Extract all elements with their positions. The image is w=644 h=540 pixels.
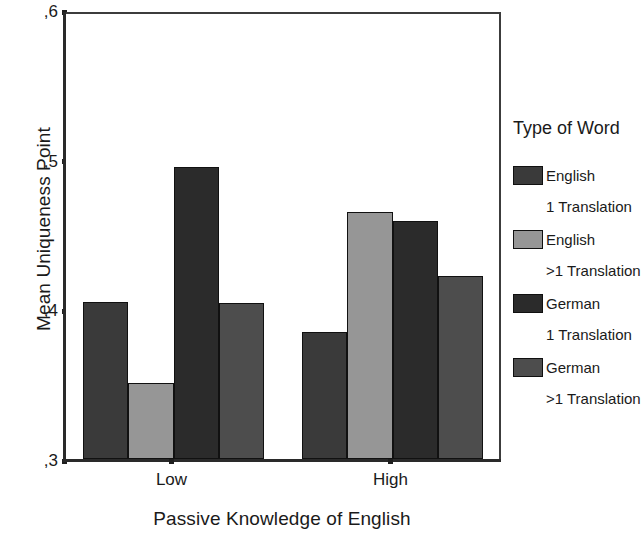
legend-entry: German1 Translation — [513, 293, 644, 342]
legend-entry-row: German — [513, 293, 644, 314]
legend-swatch — [513, 230, 543, 249]
legend-label: English — [546, 232, 595, 247]
legend-swatch — [513, 358, 543, 377]
bar — [302, 332, 347, 459]
legend-sublabel: 1 Translation — [546, 199, 644, 214]
y-axis-tick-label: ,6 — [24, 3, 58, 20]
legend-swatch — [513, 294, 543, 313]
x-axis-title: Passive Knowledge of English — [63, 508, 501, 530]
legend-label: English — [546, 168, 595, 183]
x-axis-tick-label: Low — [112, 470, 232, 490]
legend-entry: English>1 Translation — [513, 229, 644, 278]
legend-entry: German>1 Translation — [513, 357, 644, 406]
legend-label: German — [546, 360, 600, 375]
x-axis-tick-label: High — [331, 470, 451, 490]
legend-entry-row: English — [513, 229, 644, 250]
y-axis-title: Mean Uniqueness Point — [33, 99, 55, 359]
y-axis-line — [63, 12, 66, 462]
y-axis-tick-label: ,5 — [24, 153, 58, 170]
legend-entry: English1 Translation — [513, 165, 644, 214]
x-axis-tick-mark — [169, 459, 174, 464]
x-axis-tick-mark — [388, 459, 393, 464]
legend-sublabel: >1 Translation — [546, 263, 644, 278]
legend-sublabel: >1 Translation — [546, 391, 644, 406]
bar-chart-figure: Mean Uniqueness Point ,6,5,4,3 LowHigh P… — [0, 0, 644, 540]
x-axis-line — [63, 459, 501, 462]
bar — [174, 167, 219, 459]
legend-swatch — [513, 166, 543, 185]
y-axis-tick-label: ,3 — [24, 452, 58, 469]
legend-sublabel: 1 Translation — [546, 327, 644, 342]
bar — [438, 276, 483, 459]
legend-entry-list: English1 TranslationEnglish>1 Translatio… — [513, 165, 644, 406]
y-axis-tick-label: ,4 — [24, 302, 58, 319]
bar — [128, 383, 173, 459]
bar — [393, 221, 438, 459]
legend-label: German — [546, 296, 600, 311]
legend: Type of Word English1 TranslationEnglish… — [513, 118, 644, 421]
bar — [219, 303, 264, 459]
bar — [83, 302, 128, 459]
legend-entry-row: German — [513, 357, 644, 378]
bar — [347, 212, 392, 459]
legend-title: Type of Word — [513, 118, 644, 139]
plot-area — [63, 12, 501, 461]
legend-entry-row: English — [513, 165, 644, 186]
